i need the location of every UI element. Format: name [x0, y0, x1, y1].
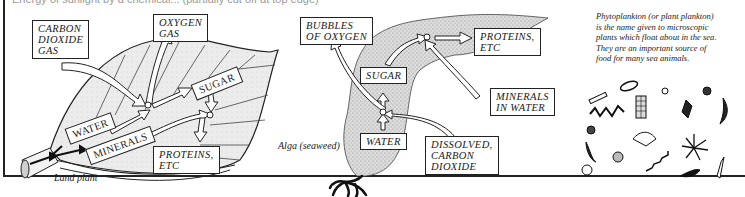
phytoplankton-cluster — [582, 79, 727, 178]
label-carbon-dioxide-gas: CARBON DIOXIDE GAS — [32, 20, 89, 59]
plankton-lens — [619, 79, 639, 93]
plankton-fan — [633, 132, 656, 146]
label-line: GAS — [38, 45, 83, 56]
label-line: PROTEINS, — [480, 31, 535, 42]
description-line: They are an important source of — [596, 43, 745, 54]
plankton-needle — [717, 157, 724, 178]
label-alga-proteins: PROTEINS, ETC — [474, 28, 541, 56]
plankton-blob — [680, 169, 700, 176]
plankton-wheel — [613, 152, 623, 162]
plankton-leaf — [586, 142, 596, 162]
label-oxygen-gas: OXYGEN GAS — [153, 14, 208, 42]
plankton-ring — [587, 126, 595, 134]
label-line: OF OXYGEN — [306, 31, 367, 42]
plankton-spoke-disc — [582, 165, 592, 175]
label-alga-sugar: SUGAR — [360, 67, 407, 84]
alga-holdfast — [330, 176, 366, 197]
label-bubbles-of-oxygen: BUBBLES OF OXYGEN — [300, 17, 373, 45]
plankton-rod — [589, 92, 607, 103]
description-line: is the name given to microscopic — [596, 22, 745, 33]
label-line: ETC — [159, 160, 214, 171]
label-proteins: PROTEINS, ETC — [153, 146, 220, 174]
label-line: OXYGEN — [159, 17, 202, 28]
description-line: plants which float about in the sea. — [596, 32, 745, 43]
description-line: Phytoplankton (or plant plankton) — [596, 11, 745, 22]
phytoplankton-description: Phytoplankton (or plant plankton) is the… — [596, 11, 745, 64]
plankton-zigzag — [646, 151, 668, 171]
stem — [21, 148, 58, 178]
caption-land-plant: Land plant — [54, 172, 98, 183]
label-line: DIOXIDE — [431, 161, 493, 172]
plankton-star — [682, 134, 708, 160]
label-alga-water: WATER — [360, 133, 407, 150]
diagram-stage: Energy of sunlight by a chemical... (par… — [0, 0, 745, 197]
label-line: CARBON — [38, 23, 83, 34]
label-line: MINERALS — [496, 91, 549, 102]
label-line: DIOXIDE — [38, 34, 83, 45]
label-line: BUBBLES — [306, 20, 367, 31]
plankton-diamond — [682, 100, 692, 118]
label-line: ETC — [480, 42, 535, 53]
label-line: PROTEINS, — [159, 149, 214, 160]
label-line: IN WATER — [496, 102, 549, 113]
label-line: DISSOLVED, — [431, 139, 493, 150]
description-line: food for many sea animals. — [596, 53, 745, 64]
label-line: GAS — [159, 28, 202, 39]
plankton-dark-disc — [703, 87, 711, 95]
plankton-crescent — [720, 98, 727, 124]
label-minerals-in-water: MINERALS IN WATER — [490, 88, 555, 116]
label-dissolved-carbon-dioxide: DISSOLVED, CARBON DIOXIDE — [425, 136, 499, 175]
plankton-chain — [590, 106, 624, 116]
plankton-small-disc — [662, 88, 668, 94]
label-line: CARBON — [431, 150, 493, 161]
caption-alga: Alga (seaweed) — [278, 140, 340, 151]
